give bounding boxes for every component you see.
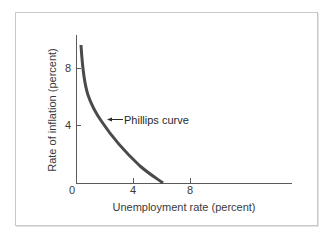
phillips-curve-annotation: Phillips curve — [124, 114, 189, 126]
phillips-curve-chart: 8 4 0 4 8 Unemployment rate (percent) Ra… — [0, 0, 334, 240]
origin-label: 0 — [69, 184, 75, 196]
x-tick-label-4: 4 — [130, 184, 136, 196]
x-tick-label-8: 8 — [187, 184, 193, 196]
y-axis-label: Rate of inflation (percent) — [46, 48, 58, 172]
y-tick-label-8: 8 — [65, 62, 71, 74]
x-axis-label: Unemployment rate (percent) — [112, 201, 255, 213]
y-tick-label-4: 4 — [65, 119, 71, 131]
arrowhead-icon — [107, 118, 112, 122]
